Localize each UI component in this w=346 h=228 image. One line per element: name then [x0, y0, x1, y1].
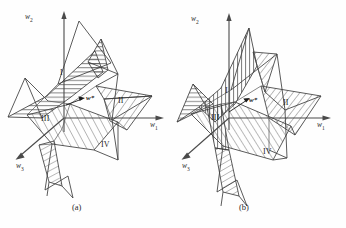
plane-region-I [8, 39, 108, 118]
region-label-I: I [60, 68, 63, 77]
region-label-III: III [211, 113, 220, 122]
plane-sliver-upper [253, 52, 277, 92]
panel-b-canvas [173, 0, 346, 228]
region-label-IV: IV [263, 147, 272, 156]
region-label-II: II [118, 96, 124, 105]
region-label-II: II [283, 98, 289, 107]
plane-region-III [39, 141, 62, 186]
region-label-IV: IV [101, 140, 110, 149]
panel-a-canvas [0, 0, 173, 228]
arrowhead-icon [61, 11, 66, 19]
axis-label-w2: w2 [25, 12, 33, 23]
axis-label-w3: w3 [182, 161, 190, 172]
axis-label-w1: w1 [317, 120, 325, 131]
region-label-I: I [225, 86, 228, 95]
axis-label-w1: w1 [150, 120, 158, 131]
vector-label-wstar: w* [86, 94, 94, 102]
figure-panel-b: w2 w1 w3 I II III IV w* (b) [173, 0, 346, 228]
figure-panel-a: w2 w1 w3 I II III IV w* (a) [0, 0, 173, 228]
axis-label-w3: w3 [16, 161, 24, 172]
axis-label-w2: w2 [191, 14, 199, 25]
panel-caption-a: (a) [72, 202, 81, 212]
figure-root: w2 w1 w3 I II III IV w* (a) [0, 0, 346, 228]
region-label-III: III [41, 114, 50, 123]
vector-label-wstar: w* [249, 96, 257, 104]
arrowhead-icon [226, 13, 231, 21]
panel-caption-b: (b) [239, 202, 249, 212]
